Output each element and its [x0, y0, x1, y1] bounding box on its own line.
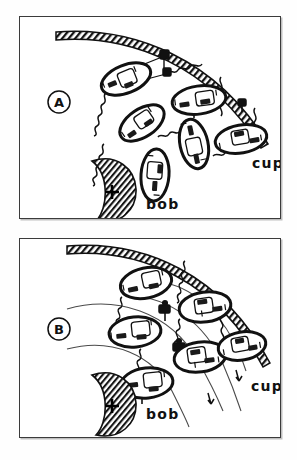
panel-label-a: A: [48, 91, 70, 113]
panel-a-drawing: A cup bob: [20, 17, 280, 218]
panel-a: A cup bob: [19, 16, 281, 219]
bob-shape-a: [92, 159, 136, 218]
cup-label-b: cup: [251, 378, 280, 394]
panel-b: B cup bob: [19, 238, 281, 438]
cup-label-a: cup: [252, 155, 280, 171]
figure-root: A cup bob: [0, 0, 297, 460]
bob-label-a: bob: [146, 196, 180, 212]
panel-label-a-text: A: [54, 95, 64, 110]
panel-label-b-text: B: [54, 322, 64, 337]
panel-b-drawing: B cup bob: [20, 239, 280, 437]
panel-label-b: B: [48, 318, 70, 340]
bob-label-b: bob: [146, 406, 180, 422]
